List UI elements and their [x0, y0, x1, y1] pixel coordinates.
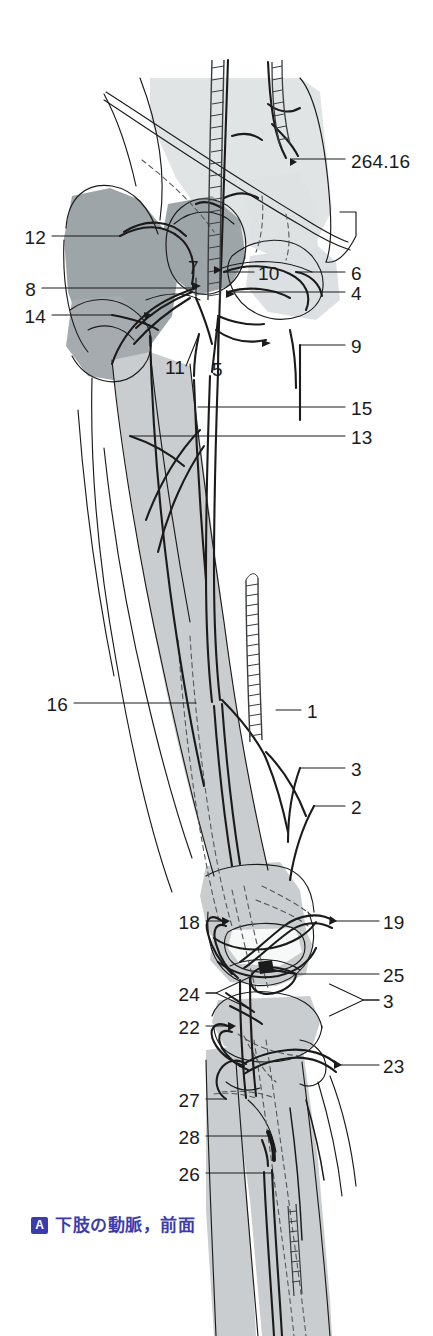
label-number-9: 9	[351, 337, 362, 356]
label-number-2: 2	[351, 798, 362, 817]
leg-lateral-soft-contour	[330, 1076, 356, 1186]
label-number-8: 8	[25, 280, 36, 299]
medial-circumflex-femoral-artery	[218, 316, 264, 325]
label-number-27: 27	[178, 1091, 200, 1110]
label-number-28: 28	[178, 1128, 200, 1147]
thigh-lateral-soft-contour-2	[78, 410, 114, 676]
intercondylar-dark-block	[258, 960, 274, 974]
label-number-4: 4	[351, 284, 362, 303]
label-number-264.16: 264.16	[351, 152, 410, 171]
femoral-vein-hatched-left	[246, 580, 250, 742]
label-number-3: 3	[351, 760, 362, 779]
leader-line-3b	[330, 984, 380, 1000]
caption-badge: A	[31, 1217, 48, 1234]
label-number-18: 18	[178, 913, 200, 932]
label-number-16: 16	[46, 695, 68, 714]
lower-limb-artery-illustration	[0, 0, 433, 1336]
label-number-10: 10	[258, 264, 280, 283]
femoral-shaft-shape	[112, 352, 268, 876]
lateral-superior-genicular-trunk	[288, 768, 300, 842]
label-number-14: 14	[24, 307, 46, 326]
label-number-15: 15	[351, 399, 373, 418]
label-number-6: 6	[351, 264, 362, 283]
label-number-3b: 3	[383, 992, 394, 1011]
descending-genicular-branch	[264, 754, 288, 832]
label-number-22: 22	[178, 1018, 200, 1037]
label-number-11: 11	[165, 358, 185, 377]
label-number-24: 24	[178, 985, 200, 1004]
label-number-7: 7	[188, 258, 199, 277]
label-number-13: 13	[351, 428, 373, 447]
figure-caption: A 下肢の動脈，前面	[31, 1216, 195, 1235]
label-number-26: 26	[178, 1165, 200, 1184]
lateral-descending-artery	[290, 806, 314, 880]
label-number-25: 25	[383, 966, 405, 985]
medial-femoral-artery-2	[290, 330, 296, 388]
leader-line-3b	[330, 1000, 380, 1016]
figure-plate: 264.161281471064911515131613218192524322…	[0, 0, 433, 1336]
femoral-vein-hatched-right	[258, 578, 262, 740]
femoral-vein-cap	[246, 574, 258, 580]
label-number-5: 5	[212, 360, 223, 379]
label-number-23: 23	[383, 1057, 405, 1076]
label-number-1: 1	[307, 702, 318, 721]
saphenous-branch	[266, 752, 306, 816]
label-number-12: 12	[24, 228, 46, 247]
label-number-19: 19	[383, 913, 405, 932]
medial-circumflex-branch	[216, 330, 266, 342]
caption-title: 下肢の動脈，前面	[55, 1216, 195, 1235]
accent-mark-5	[262, 340, 271, 347]
